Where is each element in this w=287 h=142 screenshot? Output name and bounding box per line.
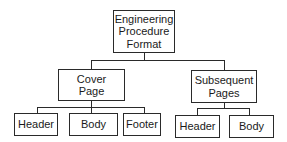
connector-subsequent-horizontal: [197, 108, 250, 109]
node-cover-page: Cover Page: [58, 69, 125, 101]
node-cover-footer: Footer: [123, 113, 161, 136]
node-label: Engineering Procedure Format: [115, 13, 174, 51]
node-subsequent-header: Header: [175, 115, 220, 138]
connector-root-down: [144, 52, 145, 60]
node-label: Footer: [126, 118, 158, 131]
node-label: Header: [18, 118, 54, 131]
node-cover-body: Body: [69, 113, 118, 136]
node-label: Subsequent Pages: [195, 74, 254, 99]
node-label: Body: [81, 118, 106, 131]
connector-level1-horizontal: [91, 60, 225, 61]
connector-to-subsequent-header: [197, 108, 198, 115]
node-subsequent-pages: Subsequent Pages: [191, 70, 257, 103]
node-subsequent-body: Body: [229, 115, 274, 138]
node-cover-header: Header: [14, 113, 58, 136]
connector-to-subsequent-pages: [224, 60, 225, 70]
node-engineering-procedure-format: Engineering Procedure Format: [113, 10, 175, 53]
connector-to-subsequent-body: [249, 108, 250, 115]
node-label: Body: [239, 120, 264, 133]
connector-cover-down: [91, 100, 92, 107]
node-label: Header: [179, 120, 215, 133]
connector-to-cover-page: [91, 60, 92, 69]
node-label: Cover Page: [77, 73, 106, 98]
